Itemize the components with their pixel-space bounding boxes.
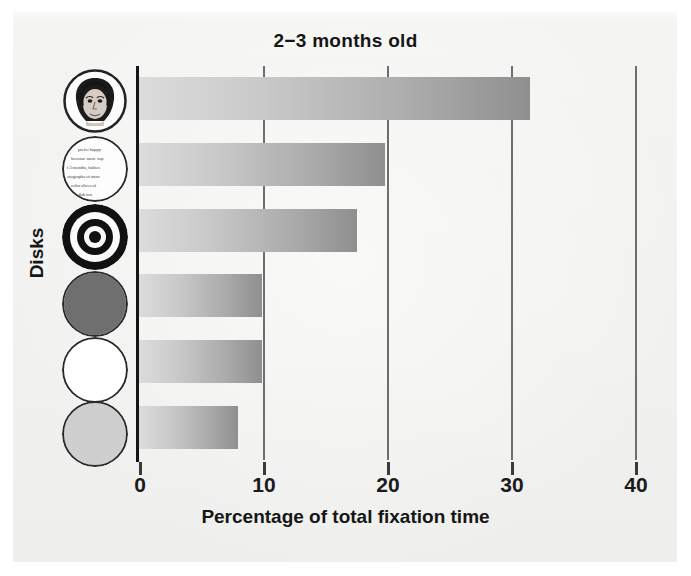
gridline-30 — [511, 66, 513, 460]
bar-fill — [139, 274, 262, 317]
y-axis-title: Disks — [26, 198, 48, 308]
page-margin-bottom — [0, 562, 691, 576]
white-disk-icon — [62, 337, 128, 403]
x-tick-label-10: 10 — [234, 473, 294, 497]
bar-fill — [139, 209, 357, 252]
bullseye-disk-icon — [62, 204, 128, 270]
page-margin-left — [0, 0, 13, 576]
x-tick-label-40: 40 — [606, 473, 666, 497]
bar-face-disk — [139, 77, 530, 120]
x-tick-label-30: 30 — [482, 473, 542, 497]
yellow-disk-icon — [62, 401, 128, 467]
bar-fill — [139, 406, 238, 449]
chart-title: 2−3 months old — [0, 30, 691, 52]
gridline-20 — [387, 66, 389, 460]
bar-newsprint-disk — [139, 143, 385, 186]
bar-fill — [139, 143, 385, 186]
gridline-40 — [635, 66, 637, 460]
bar-white-disk — [139, 340, 262, 383]
newsprint-disk-icon: prefer happy become more sop t 3 months,… — [62, 136, 128, 202]
bar-fill — [139, 77, 530, 120]
bar-chart-figure: 2−3 months old Disks — [0, 0, 691, 576]
red-disk-icon — [62, 271, 128, 337]
gridline-10 — [263, 66, 265, 460]
bar-fill — [139, 340, 262, 383]
plot-area — [139, 66, 635, 460]
page-margin-top — [0, 0, 691, 12]
bar-red-disk — [139, 274, 262, 317]
x-axis-title: Percentage of total fixation time — [0, 506, 691, 528]
x-tick-label-0: 0 — [110, 473, 170, 497]
x-tick-label-20: 20 — [358, 473, 418, 497]
face-disk-icon — [62, 68, 128, 134]
bar-bullseye-disk — [139, 209, 357, 252]
bar-yellow-disk — [139, 406, 238, 449]
page-margin-right — [677, 0, 691, 576]
